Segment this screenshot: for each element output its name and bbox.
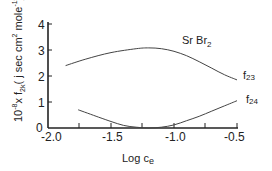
x-tick-labels: -2.0 -1.5 -1.0 -0.5 <box>41 130 245 144</box>
y-axis-label: 10-8x f2k( j sec cm2 mole-1) <box>11 0 26 122</box>
series-f23-line <box>66 48 237 80</box>
chart-title: Sr Br2 <box>182 34 212 49</box>
x-tick-label: -0.5 <box>224 130 245 144</box>
series-f24-line <box>78 101 237 128</box>
y-tick-labels: 4 3 2 1 0 <box>36 18 45 135</box>
x-axis-label: Log ce <box>122 152 154 166</box>
y-tick-label: 3 <box>38 44 45 58</box>
chart: 4 3 2 1 0 -2.0 -1.5 -1.0 -0.5 Log ce 10-… <box>0 0 272 171</box>
y-tick-label: 4 <box>38 18 45 32</box>
series-f23-label: f23 <box>243 69 256 82</box>
x-tick-label: -1.0 <box>165 130 186 144</box>
x-tick-label: -1.5 <box>102 130 123 144</box>
y-tick-label: 2 <box>38 70 45 84</box>
y-tick-label: 1 <box>38 96 45 110</box>
x-tick-label: -2.0 <box>41 130 62 144</box>
series-f24-label: f24 <box>246 93 259 106</box>
